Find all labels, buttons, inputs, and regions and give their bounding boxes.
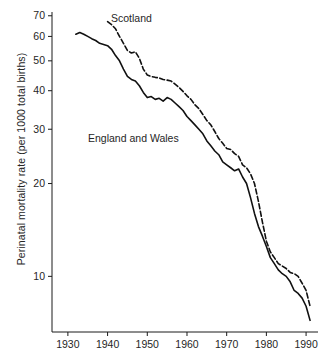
y-tick-label: 30 — [33, 123, 45, 135]
x-tick-label: 1970 — [215, 338, 239, 350]
y-tick-label: 40 — [33, 84, 45, 96]
series-label-scotland: Scotland — [111, 12, 152, 24]
x-tick-label: 1990 — [294, 338, 318, 350]
series-line-scotland — [108, 22, 310, 307]
x-tick-label: 1930 — [56, 338, 80, 350]
chart-plot-area: 1020304050607019301940195019601970198019… — [0, 0, 328, 364]
x-tick-label: 1940 — [96, 338, 120, 350]
y-tick-label: 70 — [33, 9, 45, 21]
x-tick-label: 1980 — [255, 338, 279, 350]
chart-container: 1020304050607019301940195019601970198019… — [0, 0, 328, 364]
y-tick-label: 20 — [33, 177, 45, 189]
y-tick-label: 50 — [33, 54, 45, 66]
y-tick-label: 10 — [33, 270, 45, 282]
y-tick-label: 60 — [33, 30, 45, 42]
series-label-england-and-wales: England and Wales — [88, 132, 179, 144]
series-line-england-and-wales — [76, 32, 310, 320]
x-tick-label: 1960 — [175, 338, 199, 350]
x-tick-label: 1950 — [136, 338, 160, 350]
